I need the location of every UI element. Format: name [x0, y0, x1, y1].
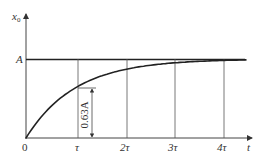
tau2-label: 2τ — [120, 141, 131, 153]
step-response-diagram: 0.63A x0 A 0 τ 2τ 3τ 4τ t — [0, 0, 266, 157]
tau3-label: 3τ — [167, 141, 179, 153]
asymptote-label: A — [15, 53, 23, 65]
response-curve — [26, 60, 247, 138]
y-axis-label: x0 — [11, 10, 21, 24]
x-axis-label: t — [247, 141, 251, 153]
dim-label: 0.63A — [78, 101, 90, 128]
tau4-label: 4τ — [217, 141, 228, 153]
origin-label: 0 — [22, 141, 28, 153]
tau1-label: τ — [75, 141, 80, 153]
